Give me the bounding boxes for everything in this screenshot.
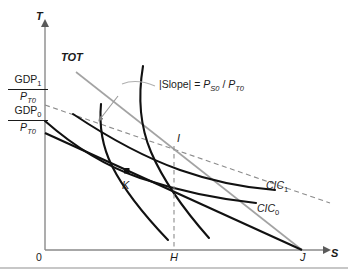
tot-label: TOT (61, 52, 83, 63)
cic0-label: CIC0 (257, 203, 279, 217)
slope-leader-line (122, 82, 155, 86)
slope-leader-group (122, 82, 155, 86)
cic0-curve (45, 121, 256, 203)
slope-slash: / (219, 78, 228, 90)
cic0-steep-branch-group (100, 104, 168, 240)
point-i-label: I (177, 133, 180, 144)
gdp0-numerator: GDP0 (8, 105, 48, 120)
figure-canvas: T S 0 GDP1 PT0 GDP0 PT0 TOT |Slope| = PS… (0, 0, 348, 278)
diagram-svg (0, 0, 348, 278)
cic0-curve-group (45, 121, 256, 203)
cic1-label: CIC1 (266, 180, 288, 194)
slope-annotation: |Slope| = PS0 / PT0 (159, 79, 244, 93)
x-axis-label: S (331, 248, 338, 259)
slope-annotation-prefix: |Slope| = (159, 78, 203, 90)
point-j-label: J (300, 252, 306, 263)
gdp0-denominator: PT0 (8, 121, 48, 136)
gdp1-denominator: PT0 (8, 90, 48, 105)
point-k-label: K (122, 180, 129, 191)
origin-label: 0 (36, 252, 42, 263)
axis-group (45, 26, 324, 250)
intercept-label-gdp1: GDP1 PT0 (8, 74, 48, 105)
intercept-label-gdp0: GDP0 PT0 (8, 105, 48, 136)
cic0-steep-branch (100, 104, 168, 240)
point-k-marker (124, 168, 130, 174)
y-axis-label: T (36, 11, 43, 22)
point-h-label: H (170, 252, 178, 263)
gdp1-numerator: GDP1 (8, 74, 48, 89)
point-k-marker-group (124, 168, 130, 174)
